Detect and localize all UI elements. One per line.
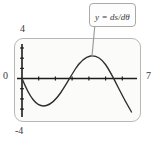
curve-equation-text: y = ds/dθ xyxy=(95,12,130,22)
data-curve xyxy=(22,56,132,112)
origin-label: 0 xyxy=(3,71,8,81)
y-axis-max-label: 4 xyxy=(20,24,25,34)
figure-container: 4 0 7 -4 y = ds/dθ xyxy=(0,0,161,147)
x-axis-max-label: 7 xyxy=(146,71,151,81)
curve-equation-callout: y = ds/dθ xyxy=(89,3,136,27)
y-axis-min-label: -4 xyxy=(15,126,23,136)
